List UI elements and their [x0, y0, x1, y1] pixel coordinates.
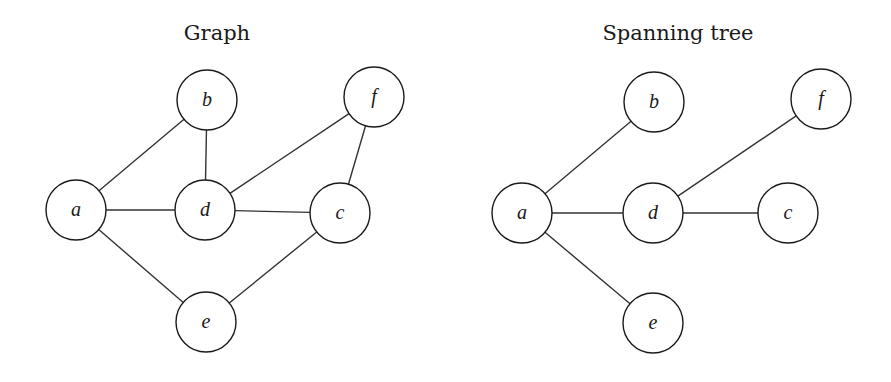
node-d: d [175, 180, 235, 240]
node-f: f [344, 67, 404, 127]
edge-a-b [545, 121, 631, 193]
node-label: a [71, 198, 81, 220]
edge-b-d [206, 130, 207, 180]
graph-title: Graph [184, 21, 250, 45]
node-c: c [758, 183, 818, 243]
graph-nodes: abdcfe [46, 67, 404, 352]
node-label: b [649, 90, 659, 112]
node-c: c [310, 183, 370, 243]
node-label: c [336, 201, 345, 223]
node-a: a [492, 183, 552, 243]
edge-d-f [230, 114, 349, 194]
edge-a-e [545, 232, 630, 303]
node-a: a [46, 180, 106, 240]
node-label: b [202, 88, 212, 110]
diagram-canvas: Graph abdcfe Spanning tree abdcfe [0, 0, 891, 382]
edge-a-e [99, 230, 184, 303]
node-f: f [791, 69, 851, 129]
node-e: e [176, 292, 236, 352]
edge-c-e [229, 232, 316, 303]
spanning-tree-nodes: abdcfe [492, 69, 851, 353]
edge-d-c [235, 211, 310, 213]
node-label: a [517, 201, 527, 223]
node-label: c [784, 201, 793, 223]
node-b: b [624, 72, 684, 132]
node-label: d [200, 198, 211, 220]
spanning-tree-title: Spanning tree [602, 21, 753, 45]
node-label: e [649, 311, 658, 333]
edge-a-b [99, 119, 184, 190]
graph-diagram: Graph abdcfe [46, 21, 404, 352]
edge-f-c [348, 126, 365, 184]
node-b: b [177, 70, 237, 130]
node-label: e [202, 310, 211, 332]
node-e: e [623, 293, 683, 353]
node-label: d [648, 201, 659, 223]
spanning-tree-diagram: Spanning tree abdcfe [492, 21, 851, 353]
node-d: d [623, 183, 683, 243]
